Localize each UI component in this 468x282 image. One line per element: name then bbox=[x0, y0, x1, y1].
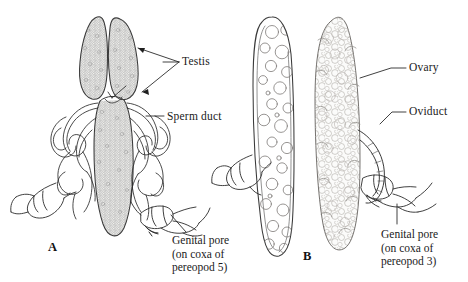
ovary-lobe-left bbox=[253, 17, 294, 256]
testis-lobe-left bbox=[80, 17, 108, 99]
label-testis: Testis bbox=[182, 55, 210, 67]
panel-letter-a: A bbox=[48, 240, 57, 255]
label-genital-pore-b: Genital pore (on coxa of pereopod 3) bbox=[381, 228, 438, 269]
label-genital-pore-b-line2: (on coxa of bbox=[381, 242, 438, 256]
sperm-duct-left bbox=[51, 103, 98, 219]
ovary-lobe-right bbox=[315, 17, 360, 250]
label-sperm-duct: Sperm duct bbox=[167, 110, 222, 122]
label-genital-pore-a-line3: pereopod 5) bbox=[172, 261, 229, 275]
coxa-leg-right-b bbox=[361, 175, 436, 212]
label-ovary: Ovary bbox=[409, 61, 439, 73]
testis-lobe-right bbox=[109, 18, 139, 100]
coxa-leg-left bbox=[11, 183, 76, 218]
oviduct bbox=[358, 130, 384, 203]
figure-root: Testis Sperm duct Genital pore (on coxa … bbox=[0, 0, 468, 282]
genital-pore-opening-a bbox=[147, 228, 158, 236]
label-genital-pore-a-line1: Genital pore bbox=[172, 234, 229, 248]
label-genital-pore-b-line3: pereopod 3) bbox=[381, 255, 438, 269]
label-genital-pore-b-line1: Genital pore bbox=[381, 228, 438, 242]
male-trunk bbox=[94, 96, 133, 236]
panel-letter-b: B bbox=[303, 249, 311, 264]
label-oviduct: Oviduct bbox=[409, 105, 447, 117]
label-genital-pore-a-line2: (on coxa of bbox=[172, 248, 229, 262]
label-genital-pore-a: Genital pore (on coxa of pereopod 5) bbox=[172, 234, 229, 275]
coxa-leg-right-genital-pore bbox=[131, 202, 210, 236]
